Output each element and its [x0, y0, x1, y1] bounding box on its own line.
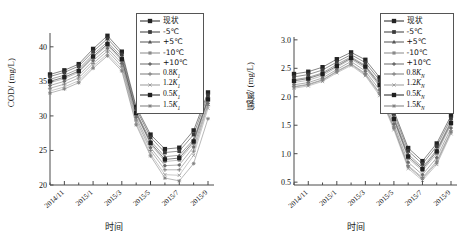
svg-text:2.0: 2.0	[281, 93, 291, 102]
svg-text:2015/5: 2015/5	[132, 188, 152, 208]
svg-text:2015/5: 2015/5	[375, 188, 395, 208]
legend-item: +5℃	[384, 37, 450, 48]
svg-text:2015/9: 2015/9	[432, 188, 452, 208]
legend-label: +5℃	[407, 37, 427, 48]
svg-text:1.5: 1.5	[281, 121, 291, 130]
legend-marker-icon	[140, 48, 160, 58]
legend-label: -5℃	[407, 27, 423, 38]
legend-marker-icon	[384, 48, 404, 58]
legend-marker-icon	[384, 90, 404, 100]
legend-label: 现状	[407, 16, 423, 27]
legend-label: 现状	[163, 16, 179, 27]
svg-text:30: 30	[39, 112, 47, 121]
ammonia-x-axis-label: 时间	[347, 220, 365, 233]
legend-item: -10℃	[140, 48, 200, 59]
svg-text:2.5: 2.5	[281, 64, 291, 73]
legend-marker-icon	[384, 69, 404, 79]
svg-text:35: 35	[39, 77, 47, 86]
chart-panel-ammonia: 0.51.01.52.02.53.02014/112015/12015/3201…	[237, 0, 473, 244]
legend-marker-icon	[140, 59, 160, 69]
svg-text:2015/1: 2015/1	[317, 188, 337, 208]
chart-panel-cod: 20253035402014/112015/12015/32015/52015/…	[0, 0, 237, 244]
legend-label: +5℃	[163, 37, 183, 48]
figure-container: 20253035402014/112015/12015/32015/52015/…	[0, 0, 473, 244]
svg-text:40: 40	[39, 43, 47, 52]
svg-text:20: 20	[39, 181, 47, 190]
legend-marker-icon	[384, 16, 404, 26]
svg-text:2015/7: 2015/7	[403, 188, 423, 208]
svg-text:2015/9: 2015/9	[189, 188, 209, 208]
legend-marker-icon	[140, 37, 160, 47]
svg-text:2015/1: 2015/1	[74, 188, 94, 208]
legend-marker-icon	[384, 101, 404, 111]
svg-text:2015/3: 2015/3	[346, 188, 366, 208]
legend-marker-icon	[140, 90, 160, 100]
legend-label: -10℃	[163, 48, 184, 59]
legend-marker-icon	[140, 27, 160, 37]
legend-item: -10℃	[384, 48, 450, 59]
cod-legend: 现状-5℃+5℃-10℃+10℃0.8K11.2K10.5K11.5K1	[136, 13, 204, 114]
legend-label: 1.5KN	[407, 100, 425, 113]
svg-text:2014/11: 2014/11	[286, 188, 309, 210]
legend-marker-icon	[384, 37, 404, 47]
legend-item: +5℃	[140, 37, 200, 48]
legend-label: -10℃	[407, 48, 428, 59]
ammonia-y-axis-label: 氨氮/ (mg/L)	[243, 62, 256, 110]
svg-text:25: 25	[39, 146, 47, 155]
legend-item: 1.5KN	[384, 101, 450, 112]
legend-marker-icon	[384, 59, 404, 69]
legend-marker-icon	[140, 101, 160, 111]
svg-text:0.5: 0.5	[281, 178, 291, 187]
legend-marker-icon	[140, 16, 160, 26]
svg-text:2014/11: 2014/11	[43, 188, 66, 210]
legend-item: 现状	[140, 16, 200, 27]
legend-label: 1.5K1	[163, 100, 180, 113]
cod-y-axis-label: COD/ (mg/L)	[6, 58, 16, 107]
legend-item: -5℃	[140, 27, 200, 38]
legend-marker-icon	[140, 80, 160, 90]
ammonia-legend: 现状-5℃+5℃-10℃+10℃0.8KN1.2KN0.5KN1.5KN	[380, 13, 454, 114]
svg-text:2015/7: 2015/7	[160, 188, 180, 208]
legend-item: -5℃	[384, 27, 450, 38]
legend-marker-icon	[384, 27, 404, 37]
svg-text:3.0: 3.0	[281, 36, 291, 45]
legend-label: -5℃	[163, 27, 179, 38]
legend-item: 现状	[384, 16, 450, 27]
legend-item: 1.5K1	[140, 101, 200, 112]
legend-marker-icon	[384, 80, 404, 90]
svg-text:1.0: 1.0	[281, 150, 291, 159]
cod-x-axis-label: 时间	[105, 220, 123, 233]
legend-marker-icon	[140, 69, 160, 79]
svg-text:2015/3: 2015/3	[103, 188, 123, 208]
